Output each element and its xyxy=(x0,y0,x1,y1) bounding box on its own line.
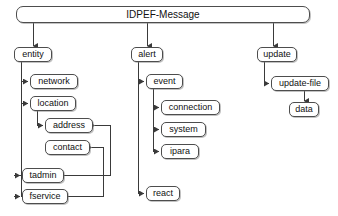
node-idpef-message[interactable]: IDPEF-Message xyxy=(16,6,310,23)
node-react[interactable]: react xyxy=(146,186,180,201)
node-contact[interactable]: contact xyxy=(45,140,90,155)
node-address[interactable]: address xyxy=(45,118,93,133)
node-label: tadmin xyxy=(29,171,56,180)
node-label: network xyxy=(38,77,70,86)
node-label: IDPEF-Message xyxy=(126,10,199,20)
node-label: data xyxy=(295,105,313,114)
node-label: update xyxy=(263,50,291,59)
node-label: address xyxy=(53,121,85,130)
node-ipara[interactable]: ipara xyxy=(161,144,199,159)
node-fservice[interactable]: fservice xyxy=(22,189,68,204)
diagram-canvas: IDPEF-Message entity network location ad… xyxy=(0,0,338,216)
node-network[interactable]: network xyxy=(30,74,78,89)
edge-location-address xyxy=(37,111,43,126)
node-label: location xyxy=(37,99,68,108)
node-update[interactable]: update xyxy=(257,47,297,62)
node-label: alert xyxy=(138,50,156,59)
node-event[interactable]: event xyxy=(146,74,183,89)
edge-update-updatefile xyxy=(264,62,269,84)
node-tadmin[interactable]: tadmin xyxy=(22,168,64,183)
node-label: fservice xyxy=(29,192,60,201)
node-label: contact xyxy=(53,143,82,152)
node-label: react xyxy=(153,189,173,198)
node-label: update-file xyxy=(279,79,321,88)
node-label: event xyxy=(153,77,175,86)
node-system[interactable]: system xyxy=(161,122,206,137)
node-alert[interactable]: alert xyxy=(131,47,163,62)
node-label: entity xyxy=(22,50,44,59)
node-label: ipara xyxy=(170,147,190,156)
node-entity[interactable]: entity xyxy=(14,47,52,62)
node-location[interactable]: location xyxy=(30,96,76,111)
node-connection[interactable]: connection xyxy=(161,100,220,115)
node-label: connection xyxy=(169,103,213,112)
node-label: system xyxy=(169,125,198,134)
node-update-file[interactable]: update-file xyxy=(271,76,329,91)
node-data[interactable]: data xyxy=(289,102,319,117)
